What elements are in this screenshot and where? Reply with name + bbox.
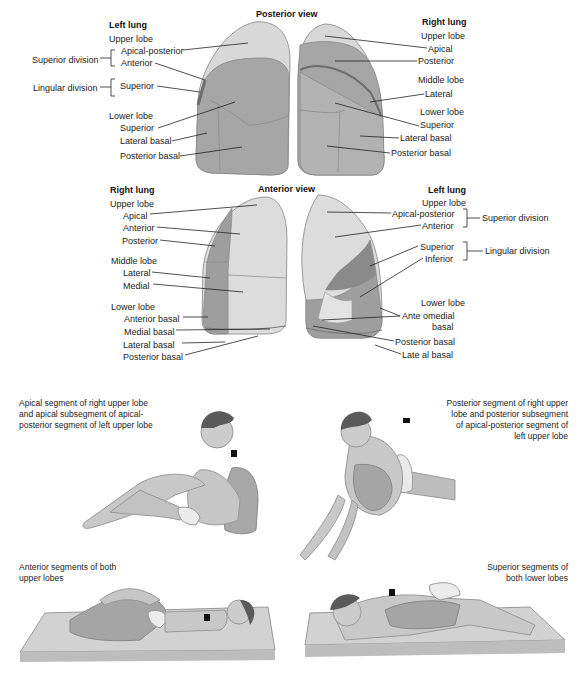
caption-line: Posterior segment of right upper — [447, 398, 568, 409]
caption-line: upper lobes — [19, 573, 116, 584]
caption-line: and apical subsegment of apical- — [19, 409, 153, 420]
caption-apical-position: Apical segment of right upper lobe and a… — [19, 398, 153, 431]
caption-line: posterior segment of left upper lobe — [19, 420, 153, 431]
caption-line: Anterior segments of both — [19, 562, 116, 573]
caption-line: Apical segment of right upper lobe — [19, 398, 153, 409]
figure-posterior-sitting — [300, 412, 455, 560]
marker-apical — [231, 450, 237, 457]
figure-anterior-supine — [20, 589, 275, 662]
lung-diagrams — [0, 0, 585, 390]
posterior-right-lung — [298, 24, 384, 175]
caption-line: Superior segments of — [487, 562, 568, 573]
caption-line: both lower lobes — [487, 573, 568, 584]
marker-anterior — [204, 614, 210, 621]
anterior-left-lung — [302, 195, 382, 338]
marker-posterior — [403, 418, 410, 423]
marker-superior — [389, 589, 395, 596]
caption-line: lobe and posterior subsegment — [447, 409, 568, 420]
caption-line: left upper lobe — [447, 431, 568, 442]
figure-superior-prone — [305, 583, 565, 657]
caption-posterior-position: Posterior segment of right upper lobe an… — [447, 398, 568, 442]
anterior-right-lung — [202, 197, 287, 334]
caption-anterior-position: Anterior segments of both upper lobes — [19, 562, 116, 584]
caption-superior-position: Superior segments of both lower lobes — [487, 562, 568, 584]
caption-line: of apical-posterior segment of — [447, 420, 568, 431]
